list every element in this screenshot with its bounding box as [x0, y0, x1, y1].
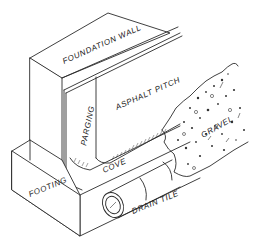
label-gravel: GRAVEL: [200, 114, 235, 140]
label-drain-tile: DRAIN TILE: [130, 189, 180, 216]
foundation-diagram: FOUNDATION WALL ASPHALT PITCH PARGING GR…: [0, 0, 256, 240]
label-parging: PARGING: [79, 105, 96, 147]
label-cove: COVE: [101, 156, 128, 174]
label-asphalt-pitch: ASPHALT PITCH: [113, 75, 181, 112]
